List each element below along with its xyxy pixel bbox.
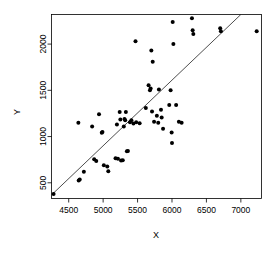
data-point xyxy=(144,106,148,110)
data-point xyxy=(191,32,195,36)
data-point xyxy=(124,110,128,114)
data-point xyxy=(255,29,259,33)
data-point xyxy=(167,103,171,107)
data-point xyxy=(122,124,126,128)
y-tick-label: 500 xyxy=(39,175,49,189)
data-point xyxy=(126,149,130,153)
data-point xyxy=(118,117,122,121)
data-point xyxy=(180,121,184,125)
data-point xyxy=(155,114,159,118)
y-axis-title: Y xyxy=(12,109,22,115)
data-point xyxy=(191,28,195,32)
data-point xyxy=(52,192,56,196)
y-tick-label: 2000 xyxy=(39,34,49,53)
data-point xyxy=(90,124,94,128)
x-tick-label: 4500 xyxy=(59,205,78,215)
data-point xyxy=(151,60,155,64)
data-point xyxy=(170,130,174,134)
x-tick-label: 5000 xyxy=(94,205,113,215)
data-point xyxy=(150,110,154,114)
data-point xyxy=(152,120,156,124)
x-tick-label: 6500 xyxy=(197,205,216,215)
data-point xyxy=(118,110,122,114)
x-tick-label: 6000 xyxy=(163,205,182,215)
data-point xyxy=(123,118,127,122)
data-point xyxy=(134,39,138,43)
data-point xyxy=(156,121,160,125)
data-point xyxy=(78,178,82,182)
x-axis-tick-labels: 450050005500600065007000 xyxy=(59,205,250,215)
x-tick-label: 5500 xyxy=(128,205,147,215)
y-axis-tick-labels: 500100015002000 xyxy=(39,34,49,190)
regression-line xyxy=(52,15,241,195)
data-point xyxy=(121,158,125,162)
data-points xyxy=(52,16,259,196)
data-point xyxy=(106,169,110,173)
data-point xyxy=(102,163,106,167)
data-point xyxy=(190,16,194,20)
data-point xyxy=(171,42,175,46)
y-axis-ticks xyxy=(48,44,52,183)
data-point xyxy=(149,86,153,90)
data-point xyxy=(100,130,104,134)
data-point xyxy=(94,159,98,163)
y-tick-label: 1500 xyxy=(39,81,49,100)
data-point xyxy=(159,108,163,112)
data-point xyxy=(169,88,173,92)
data-point xyxy=(134,120,138,124)
data-point xyxy=(219,29,223,33)
x-tick-label: 7000 xyxy=(231,205,250,215)
data-point xyxy=(170,141,174,145)
data-point xyxy=(115,123,119,127)
data-point xyxy=(149,49,153,53)
data-point xyxy=(157,87,161,91)
x-axis-title: X xyxy=(153,230,159,240)
y-tick-label: 1000 xyxy=(39,127,49,146)
scatter-plot-figure: 450050005500600065007000 500100015002000… xyxy=(0,0,275,256)
data-point xyxy=(171,20,175,24)
chart-canvas: 450050005500600065007000 500100015002000… xyxy=(0,0,275,256)
data-point xyxy=(105,165,109,169)
x-axis-ticks xyxy=(69,199,241,203)
data-point xyxy=(138,121,142,125)
data-point xyxy=(161,127,165,131)
data-point xyxy=(174,103,178,107)
data-point xyxy=(82,170,86,174)
data-point xyxy=(160,116,164,120)
data-point xyxy=(76,121,80,125)
data-point xyxy=(97,112,101,116)
